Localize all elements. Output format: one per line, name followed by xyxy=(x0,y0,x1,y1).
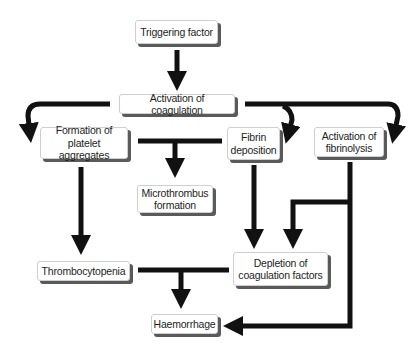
node-label: Haemorrhage xyxy=(154,318,216,331)
node-depletion-of-coagulation-factors: Depletion of coagulation factors xyxy=(233,252,328,286)
dic-pathway-diagram: Triggering factor Activation of coagulat… xyxy=(0,0,418,358)
node-label: Activation of coagulation xyxy=(123,92,231,117)
node-haemorrhage: Haemorrhage xyxy=(151,314,218,334)
node-microthrombus-formation: Microthrombus formation xyxy=(137,185,213,213)
node-thrombocytopenia: Thrombocytopenia xyxy=(37,261,130,281)
line-fibrinolysis-down xyxy=(232,162,350,326)
node-platelet-aggregates: Formation of platelet aggregates xyxy=(40,127,128,159)
connector-layer xyxy=(0,0,418,358)
arrow-fibrinolysis-to-depletion xyxy=(293,202,350,240)
node-fibrin-deposition: Fibrin deposition xyxy=(227,127,280,160)
node-label: Depletion of coagulation factors xyxy=(238,257,322,282)
node-label: Activation of fibrinolysis xyxy=(322,130,377,155)
node-label: Triggering factor xyxy=(140,26,213,39)
node-activation-of-fibrinolysis: Activation of fibrinolysis xyxy=(314,127,384,157)
node-activation-of-coagulation: Activation of coagulation xyxy=(119,94,235,114)
node-label: Formation of platelet aggregates xyxy=(44,124,124,162)
arrow-coagulation-to-fibrin xyxy=(283,106,292,135)
node-label: Microthrombus formation xyxy=(142,187,209,212)
node-triggering-factor: Triggering factor xyxy=(135,20,218,44)
node-label: Fibrin deposition xyxy=(231,131,277,156)
node-label: Thrombocytopenia xyxy=(42,265,126,278)
